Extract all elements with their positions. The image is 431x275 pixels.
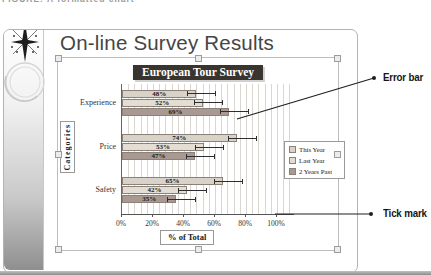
error-bar — [186, 154, 215, 159]
callout-error-bar: Error bar — [383, 71, 423, 83]
compass-logo-icon — [4, 30, 50, 142]
bar-value-label: 69% — [122, 108, 229, 116]
error-bar — [220, 109, 249, 114]
category-label: Experience — [58, 98, 116, 107]
bar-value-label: 47% — [122, 152, 195, 160]
minor-gridline — [258, 84, 259, 214]
bar-value-label: 53% — [122, 143, 204, 151]
x-tick-label: 40% — [168, 219, 198, 228]
selection-handle-bottom-left[interactable] — [55, 246, 62, 253]
minor-gridline — [265, 84, 266, 214]
error-bar — [194, 100, 223, 105]
legend-item: 2 Years Past — [289, 168, 341, 175]
chart-title: European Tour Survey — [133, 65, 263, 80]
legend-label: 2 Years Past — [299, 168, 332, 175]
bar-value-label: 52% — [122, 99, 203, 107]
selection-handle-mid-left[interactable] — [55, 151, 62, 158]
selection-handle-mid-right[interactable] — [334, 151, 341, 158]
minor-gridline — [227, 84, 228, 214]
callout-tick-mark: Tick mark — [383, 207, 427, 219]
category-label: Safety — [58, 185, 116, 194]
error-bar — [214, 179, 243, 184]
minor-gridline — [234, 84, 235, 214]
tick-mark — [214, 214, 215, 217]
tick-mark — [245, 214, 246, 217]
tick-mark — [183, 214, 184, 217]
page-scan-edge — [0, 271, 431, 275]
selection-handle-top-right[interactable] — [334, 55, 341, 62]
x-tick-label: 80% — [230, 219, 260, 228]
selection-handle-bottom-center[interactable] — [195, 246, 202, 253]
x-axis-title-box: % of Total — [160, 230, 214, 245]
error-bar — [228, 136, 257, 141]
error-bar — [167, 197, 196, 202]
chart-object[interactable]: European Tour Survey 48%52%69%74%53%47%6… — [57, 57, 339, 251]
selection-handle-bottom-right[interactable] — [334, 246, 341, 253]
figure-caption-cropped: FIGURE: A formatted chart — [2, 0, 192, 5]
x-tick-label: 0% — [106, 219, 136, 228]
slide-title: On-line Survey Results — [60, 31, 274, 55]
error-bar — [187, 91, 216, 96]
error-bar — [195, 145, 224, 150]
legend-label: This Year — [299, 146, 325, 153]
selection-handle-top-left[interactable] — [55, 55, 62, 62]
bar-value-label: 74% — [122, 134, 237, 142]
tick-mark — [152, 214, 153, 217]
minor-gridline — [271, 84, 272, 214]
tick-mark — [276, 214, 277, 217]
legend-swatch-icon — [289, 168, 296, 175]
minor-gridline — [240, 84, 241, 214]
error-bar — [178, 188, 207, 193]
chart-legend: This YearLast Year2 Years Past — [284, 141, 345, 179]
category-label: Price — [58, 142, 116, 151]
legend-label: Last Year — [299, 157, 325, 164]
bar-value-label: 65% — [122, 177, 223, 185]
bar-value-label: 48% — [122, 90, 196, 98]
legend-swatch-icon — [289, 157, 296, 164]
legend-item: Last Year — [289, 157, 341, 164]
selection-handle-top-center[interactable] — [195, 55, 202, 62]
minor-gridline — [252, 84, 253, 214]
minor-gridline — [246, 84, 247, 214]
minor-gridline — [277, 84, 278, 214]
legend-swatch-icon — [289, 146, 296, 153]
x-axis-title: % of Total — [168, 232, 206, 242]
tick-mark — [121, 214, 122, 217]
x-tick-label: 20% — [137, 219, 167, 228]
x-tick-label: 60% — [199, 219, 229, 228]
x-tick-label: 100% — [261, 219, 291, 228]
plot-area: 48%52%69%74%53%47%65%42%35% — [121, 84, 294, 215]
slide-theme-strip — [4, 30, 44, 270]
